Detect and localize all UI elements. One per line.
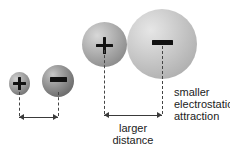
electrostatic-attraction-diagram: larger distance smaller electrostatic at… — [0, 0, 230, 157]
smaller-attraction-label: smaller electrostatic attraction — [174, 86, 230, 123]
larger-distance-label: larger distance — [103, 122, 163, 146]
drop-line-negative-largest — [162, 46, 163, 114]
distance-arrow-far-pair — [104, 115, 162, 116]
arrowhead-left-close-pair — [19, 114, 24, 120]
drop-line-positive-large — [104, 50, 105, 114]
arrowhead-left-far-pair — [104, 112, 109, 118]
arrowhead-right-close-pair — [53, 114, 58, 120]
drop-line-negative-medium — [58, 92, 59, 116]
arrowhead-right-far-pair — [157, 112, 162, 118]
drop-line-positive-small — [19, 92, 20, 116]
